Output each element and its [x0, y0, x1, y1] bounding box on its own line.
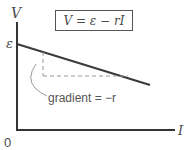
voltage-current-line	[17, 44, 150, 85]
origin-label: 0	[4, 136, 11, 149]
y-axis-label: V	[11, 6, 21, 20]
equation-box: V = ε − rI	[55, 10, 133, 31]
emf-intercept-label: ε	[6, 37, 13, 50]
annotation-leader-curve	[31, 64, 47, 96]
equation-text: V = ε − rI	[64, 14, 125, 28]
emf-internal-resistance-diagram: V I ε 0 V = ε − rI gradient = −r	[0, 0, 189, 150]
gradient-annotation: gradient = −r	[48, 92, 116, 104]
x-axis-label: I	[178, 124, 183, 137]
